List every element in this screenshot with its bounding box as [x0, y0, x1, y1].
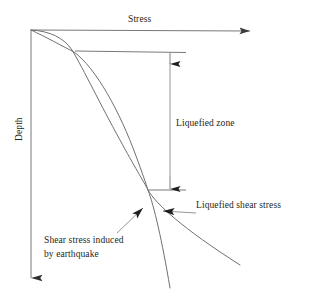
x-axis-line: [31, 30, 250, 31]
shear-stress-induced-label-line-2: by earthquake: [44, 248, 164, 262]
liquefied-zone-label: Liquefied zone: [176, 117, 235, 129]
liquefied-zone-top-tick: [75, 51, 186, 53]
x-axis-label: Stress: [128, 13, 151, 25]
shear-stress-induced-leader: [117, 208, 143, 233]
y-axis-label: Depth: [13, 117, 25, 141]
shear-stress-induced-label-line-1: Shear stress induced: [44, 234, 164, 248]
curve-liquefied-shear-stress: [31, 30, 240, 265]
shear-stress-induced-label: Shear stress induced by earthquake: [44, 234, 164, 261]
figure-canvas: Stress Depth Liquefied zone Liquefied sh…: [0, 0, 312, 301]
liquefied-shear-stress-label: Liquefied shear stress: [196, 199, 281, 211]
